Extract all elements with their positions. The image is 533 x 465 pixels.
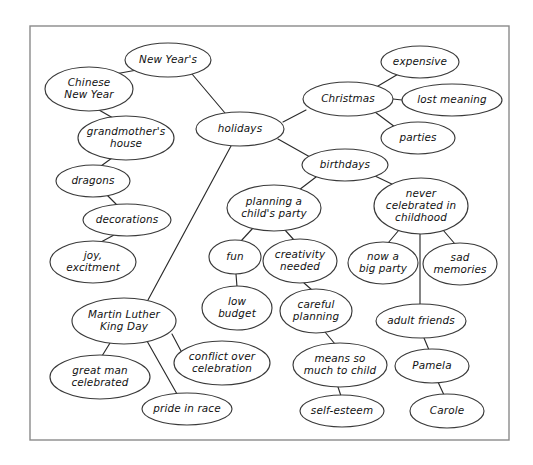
node-label-pride-in-race: pride in race <box>152 402 221 414</box>
concept-node-self-esteem[interactable]: self-esteem <box>300 395 384 427</box>
node-label-planning-party: child's party <box>241 207 307 219</box>
node-label-joy-excitment: joy, <box>82 249 103 261</box>
node-label-adult-friends: adult friends <box>387 314 455 326</box>
concept-node-pride-in-race[interactable]: pride in race <box>142 393 232 425</box>
concept-node-lost-meaning[interactable]: lost meaning <box>402 84 502 116</box>
concept-node-joy-excitment[interactable]: joy,excitment <box>50 241 136 283</box>
concept-node-dragons[interactable]: dragons <box>56 165 130 197</box>
concept-node-holidays[interactable]: holidays <box>196 112 284 146</box>
node-label-creativity-needed: needed <box>280 260 320 272</box>
concept-node-christmas[interactable]: Christmas <box>303 82 393 116</box>
concept-node-new-years[interactable]: New Year's <box>125 43 211 77</box>
node-label-planning-party: planning a <box>245 195 302 207</box>
node-label-means-so-much: much to child <box>304 364 377 376</box>
node-label-parties: parties <box>398 131 436 143</box>
node-label-never-celebrated: never <box>406 187 437 199</box>
node-label-mlk-day: Martin Luther <box>88 308 161 320</box>
node-label-chinese-new-year: Chinese <box>68 76 111 88</box>
node-label-conflict: celebration <box>192 362 252 374</box>
node-label-great-man: great man <box>72 364 127 376</box>
concept-node-mlk-day[interactable]: Martin LutherKing Day <box>72 298 176 344</box>
concept-node-fun[interactable]: fun <box>209 240 261 274</box>
node-label-now-a-big-party: big party <box>359 262 408 274</box>
node-label-now-a-big-party: now a <box>367 250 399 262</box>
concept-node-pamela[interactable]: Pamela <box>395 349 469 383</box>
node-label-grandmothers-house: house <box>110 137 142 149</box>
concept-node-creativity-needed[interactable]: creativityneeded <box>263 239 337 283</box>
node-label-sad-memories: memories <box>433 263 487 275</box>
concept-node-carole[interactable]: Carole <box>410 394 484 428</box>
node-label-decorations: decorations <box>96 213 159 225</box>
concept-node-chinese-new-year[interactable]: ChineseNew Year <box>45 67 133 111</box>
concept-map-canvas: New Year'sChineseNew YearholidaysChristm… <box>0 0 533 465</box>
node-label-mlk-day: King Day <box>100 320 149 332</box>
node-label-low-budget: budget <box>218 307 257 319</box>
node-label-conflict: conflict over <box>189 350 256 362</box>
node-label-pamela: Pamela <box>412 359 451 371</box>
concept-node-low-budget[interactable]: lowbudget <box>202 286 272 330</box>
concept-node-never-celebrated[interactable]: nevercelebrated inchildhood <box>374 178 468 234</box>
node-label-dragons: dragons <box>71 174 115 186</box>
concept-node-decorations[interactable]: decorations <box>83 204 171 236</box>
node-label-great-man: celebrated <box>71 376 128 388</box>
concept-node-birthdays[interactable]: birthdays <box>302 149 388 181</box>
concept-node-parties[interactable]: parties <box>381 122 455 154</box>
node-label-self-esteem: self-esteem <box>311 404 373 416</box>
node-label-expensive: expensive <box>393 55 447 67</box>
concept-map-diagram: New Year'sChineseNew YearholidaysChristm… <box>0 0 533 465</box>
node-label-birthdays: birthdays <box>320 158 371 170</box>
concept-node-sad-memories[interactable]: sadmemories <box>423 243 497 285</box>
node-label-never-celebrated: childhood <box>395 211 447 223</box>
concept-node-planning-party[interactable]: planning achild's party <box>227 185 321 231</box>
node-label-new-years: New Year's <box>139 53 197 65</box>
concept-node-great-man[interactable]: great mancelebrated <box>50 355 150 399</box>
node-label-christmas: Christmas <box>321 92 375 104</box>
node-label-chinese-new-year: New Year <box>64 88 114 100</box>
concept-node-adult-friends[interactable]: adult friends <box>376 304 466 338</box>
node-label-careful-planning: planning <box>292 310 340 322</box>
node-label-holidays: holidays <box>218 122 263 134</box>
node-label-creativity-needed: creativity <box>275 248 326 260</box>
node-label-lost-meaning: lost meaning <box>417 93 487 105</box>
concept-node-now-a-big-party[interactable]: now abig party <box>348 242 418 284</box>
node-label-low-budget: low <box>228 295 247 307</box>
concept-node-means-so-much[interactable]: means somuch to child <box>293 343 387 387</box>
node-label-means-so-much: means so <box>314 352 365 364</box>
node-label-never-celebrated: celebrated in <box>386 199 456 211</box>
node-label-sad-memories: sad <box>451 251 470 263</box>
node-label-grandmothers-house: grandmother's <box>87 125 166 137</box>
node-label-joy-excitment: excitment <box>66 261 121 273</box>
node-label-fun: fun <box>226 250 243 262</box>
concept-node-conflict[interactable]: conflict overcelebration <box>174 341 270 385</box>
node-label-careful-planning: careful <box>298 298 335 310</box>
node-label-carole: Carole <box>430 404 464 416</box>
concept-node-expensive[interactable]: expensive <box>381 46 459 78</box>
concept-node-careful-planning[interactable]: carefulplanning <box>280 289 352 333</box>
concept-node-grandmothers-house[interactable]: grandmother'shouse <box>78 116 174 160</box>
